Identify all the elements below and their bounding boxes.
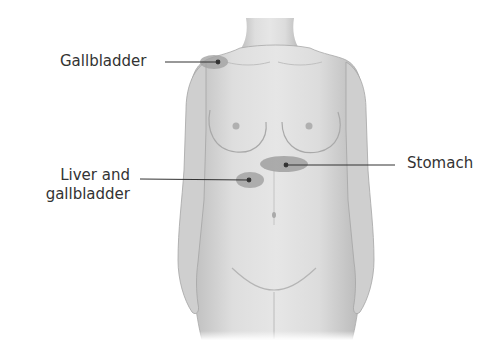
label-stomach: Stomach [407, 154, 473, 173]
left-nipple [306, 123, 313, 130]
leader-dot-liver [247, 178, 251, 182]
label-liver-line1: Liver and [34, 166, 130, 185]
label-gallbladder: Gallbladder [60, 52, 146, 71]
navel [272, 212, 276, 218]
diagram-canvas: Gallbladder Liver and gallbladder Stomac… [0, 0, 504, 340]
right-nipple [233, 123, 240, 130]
label-liver-line2: gallbladder [34, 185, 130, 204]
leader-dot-gallbladder [216, 60, 220, 64]
label-liver-and-gallbladder: Liver and gallbladder [34, 166, 130, 204]
bottom-fade [170, 280, 390, 340]
leader-dot-stomach [284, 163, 288, 167]
